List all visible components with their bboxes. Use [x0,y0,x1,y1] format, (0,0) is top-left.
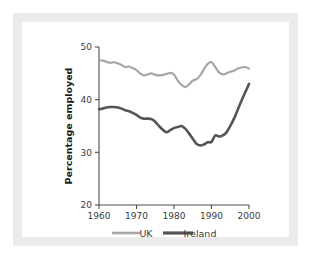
series-group [99,60,249,145]
y-tick-label: 30 [81,148,93,158]
legend-label-uk: UK [139,228,153,239]
x-tick-label: 1990 [200,211,223,221]
chart-legend: UKIreland [112,228,216,239]
y-tick-label: 50 [81,42,93,52]
series-line-uk [99,60,249,87]
x-tick-label: 1960 [88,211,111,221]
y-axis-title: Percentage employed [63,68,74,185]
series-line-ireland [99,84,249,146]
figure-container: 20304050 19601970198019902000 Percentage… [0,0,311,259]
legend-label-ireland: Ireland [184,228,217,239]
y-tick-label: 20 [81,200,93,210]
x-tick-label: 2000 [238,211,261,221]
x-tick-marks [99,205,249,209]
axis-lines [99,47,249,205]
x-tick-label: 1980 [163,211,186,221]
y-tick-label: 40 [81,95,93,105]
y-tick-marks [95,47,99,205]
y-tick-labels: 20304050 [81,42,93,210]
line-chart: 20304050 19601970198019902000 Percentage… [0,0,311,259]
x-tick-labels: 19601970198019902000 [88,211,261,221]
x-tick-label: 1970 [125,211,148,221]
